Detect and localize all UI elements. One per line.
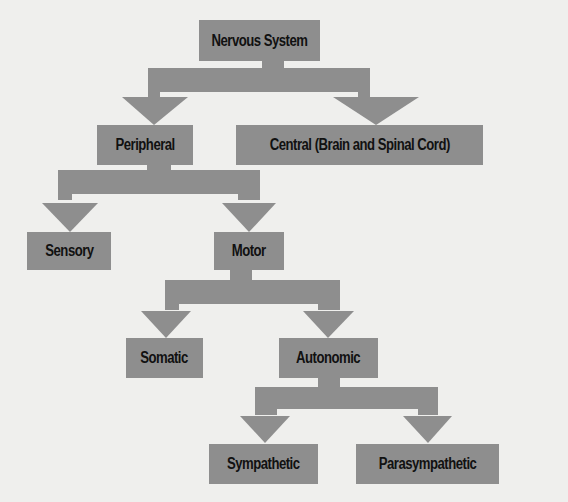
node-sensory: Sensory	[27, 232, 111, 270]
node-motor: Motor	[214, 232, 284, 270]
node-label: Nervous System	[212, 32, 308, 50]
nervous-system-diagram: Nervous System Peripheral Central (Brain…	[0, 0, 568, 502]
node-somatic: Somatic	[126, 338, 203, 378]
node-parasympathetic: Parasympathetic	[356, 444, 499, 484]
node-peripheral: Peripheral	[97, 125, 193, 165]
node-label: Motor	[232, 242, 266, 260]
node-autonomic: Autonomic	[279, 338, 378, 378]
arrow-connector-peripheral	[42, 164, 276, 232]
node-label: Somatic	[141, 349, 189, 367]
arrow-connector-motor	[141, 270, 354, 338]
arrow-connector-autonomic	[240, 378, 452, 443]
node-label: Parasympathetic	[379, 455, 477, 473]
node-label: Sympathetic	[227, 455, 300, 473]
node-sympathetic: Sympathetic	[209, 444, 318, 484]
node-central: Central (Brain and Spinal Cord)	[236, 125, 483, 165]
node-label: Peripheral	[115, 136, 174, 154]
node-label: Autonomic	[296, 349, 360, 367]
node-label: Central (Brain and Spinal Cord)	[269, 136, 449, 154]
node-label: Sensory	[45, 242, 93, 260]
node-nervous-system: Nervous System	[199, 20, 320, 61]
arrow-connector-nervous-system	[122, 60, 419, 125]
